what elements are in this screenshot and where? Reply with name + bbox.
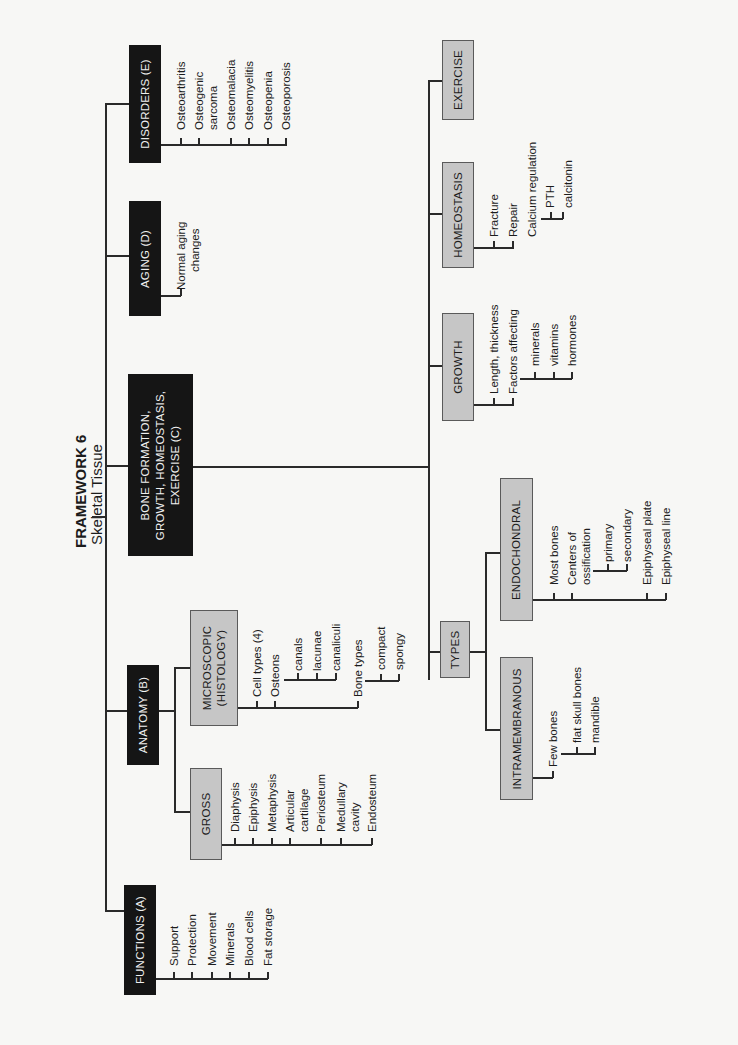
- tick: [180, 289, 182, 296]
- tick: [512, 241, 514, 248]
- page-title: FRAMEWORK 6: [74, 435, 87, 548]
- gross-item: Medullary: [335, 782, 348, 832]
- endochondral-item: ossification: [580, 528, 593, 585]
- gross-item: cavity: [349, 803, 362, 832]
- intramembranous-item: Few bones: [547, 711, 560, 767]
- types-spine: [485, 552, 487, 730]
- tick: [211, 972, 213, 979]
- tick: [252, 838, 254, 845]
- disorder-item: Osteogenic: [193, 72, 206, 130]
- bone-types-sub: compact: [375, 627, 388, 670]
- gross-item: Diaphysis: [229, 782, 242, 832]
- connector: [485, 552, 500, 554]
- intramembranous-sub: flat skull bones: [571, 667, 584, 743]
- osteons-sub: lacunae: [311, 631, 324, 671]
- aging-item: changes: [189, 229, 202, 272]
- tick: [493, 398, 495, 405]
- tick: [552, 771, 554, 778]
- microscopic-item: Bone types: [352, 639, 365, 697]
- connector: [428, 365, 442, 367]
- tick: [340, 838, 342, 845]
- tick: [234, 838, 236, 845]
- tick: [316, 673, 318, 680]
- tick: [493, 241, 495, 248]
- anatomy-box: ANATOMY (B): [127, 665, 159, 765]
- growth-sub: minerals: [529, 323, 542, 366]
- tick: [230, 138, 232, 145]
- disorder-item: Osteoarthritis: [175, 62, 188, 130]
- tick: [398, 674, 400, 681]
- tick: [198, 138, 200, 145]
- gross-item: Articular: [284, 790, 297, 832]
- homeostasis-item: Repair: [507, 203, 520, 237]
- gross-item: Epiphysis: [247, 783, 260, 832]
- connector: [105, 103, 129, 105]
- gross-item: cartilage: [298, 789, 311, 832]
- function-item: Blood cells: [243, 910, 256, 966]
- anatomy-spine: [174, 667, 176, 812]
- tick: [607, 564, 609, 571]
- endochondral-sub: primary: [602, 524, 615, 562]
- tick: [550, 212, 552, 219]
- connector: [428, 80, 442, 82]
- tick: [380, 674, 382, 681]
- endochondral-box: ENDOCHONDRAL: [500, 478, 533, 621]
- endochondral-item: Centers of: [566, 532, 579, 585]
- tick: [665, 593, 667, 600]
- osteons-sub: canaliculi: [330, 624, 343, 671]
- tick: [571, 372, 573, 379]
- connector: [174, 811, 190, 813]
- connector: [105, 710, 129, 712]
- growth-sub: vitamins: [548, 324, 561, 366]
- growth-item: Length, thickness: [488, 304, 501, 394]
- intramembranous-sub: mandible: [589, 696, 602, 743]
- connector: [159, 710, 175, 712]
- function-item: Fat storage: [262, 908, 275, 966]
- main-spine: [105, 103, 107, 911]
- connector: [428, 651, 440, 653]
- connector: [105, 255, 129, 257]
- bone-types-sub: spongy: [393, 633, 406, 670]
- tick: [267, 972, 269, 979]
- microscopic-item: Osteons: [269, 654, 282, 697]
- connector: [470, 651, 486, 653]
- tick: [289, 838, 291, 845]
- osteons-sub: canals: [292, 638, 305, 671]
- connector: [222, 844, 372, 846]
- disorder-item: Osteopenia: [262, 71, 275, 130]
- function-item: Protection: [186, 914, 199, 966]
- tick: [335, 673, 337, 680]
- connector: [520, 378, 572, 380]
- page-subtitle: Skeletal Tissue: [90, 444, 103, 545]
- connector: [485, 729, 500, 731]
- endochondral-item: Epiphyseal line: [660, 508, 673, 585]
- endochondral-item: Epiphyseal plate: [641, 501, 654, 585]
- tick: [534, 372, 536, 379]
- exercise-box: EXERCISE: [442, 40, 474, 120]
- connector: [541, 218, 563, 220]
- tick: [248, 972, 250, 979]
- tick: [180, 138, 182, 145]
- microscopic-item: Cell types (4): [251, 629, 264, 697]
- growth-sub: hormones: [566, 315, 579, 366]
- tick: [191, 972, 193, 979]
- connector: [284, 679, 336, 681]
- tick: [371, 838, 373, 845]
- tick: [256, 701, 258, 708]
- function-item: Movement: [206, 912, 219, 966]
- tick: [646, 593, 648, 600]
- connector: [593, 570, 627, 572]
- tick: [562, 212, 564, 219]
- function-item: Support: [168, 926, 181, 966]
- tick: [320, 838, 322, 845]
- connector: [365, 680, 399, 682]
- endochondral-sub: secondary: [621, 509, 634, 562]
- microscopic-box: MICROSCOPIC (HISTOLOGY): [190, 610, 238, 726]
- homeostasis-item: Calcium regulation: [526, 142, 539, 237]
- tick: [571, 593, 573, 600]
- connector: [428, 213, 442, 215]
- aging-item: Normal aging: [175, 222, 188, 290]
- intramembranous-box: INTRAMEMBRANOUS: [500, 657, 533, 800]
- homeostasis-sub: calcitonin: [562, 160, 575, 208]
- connector: [92, 516, 106, 518]
